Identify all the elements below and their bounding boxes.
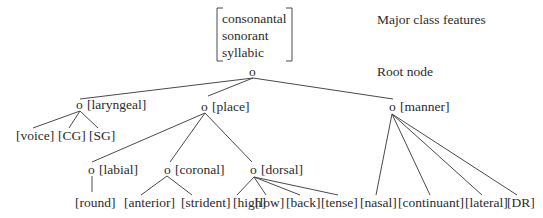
laryngeal-node: o bbox=[76, 97, 83, 112]
feature-lateral: [lateral] bbox=[465, 195, 508, 210]
feature-consonantal: consonantal bbox=[222, 10, 286, 27]
edge-laryngeal-sg bbox=[80, 111, 98, 128]
edge-laryngeal-voice bbox=[33, 111, 80, 128]
feature-syllabic: syllabic bbox=[222, 44, 286, 61]
feature-continuant: [continuant] bbox=[398, 195, 464, 210]
edge-place-dorsal bbox=[205, 113, 252, 162]
feature-dr: [DR] bbox=[507, 195, 535, 210]
feature-tense: [tense] bbox=[321, 195, 358, 210]
dorsal-label: [dorsal] bbox=[261, 162, 303, 177]
edge-dorsal-high bbox=[237, 177, 254, 195]
feature-round: [round] bbox=[75, 195, 116, 210]
laryngeal-label: [laryngeal] bbox=[87, 97, 146, 112]
major-class-label: Major class features bbox=[377, 12, 486, 27]
coronal-label: [coronal] bbox=[175, 162, 224, 177]
place-label: [place] bbox=[212, 99, 249, 114]
feature-voice: [voice] bbox=[16, 128, 54, 143]
root-node: o bbox=[249, 64, 256, 79]
feature-sg: [SG] bbox=[89, 128, 115, 143]
bracket-right bbox=[286, 8, 292, 61]
feature-low: [low] bbox=[255, 195, 284, 210]
edge-root-manner bbox=[253, 78, 393, 99]
edge-dorsal-tense bbox=[254, 177, 338, 195]
coronal-node: o bbox=[164, 162, 171, 177]
feature-strident: [strident] bbox=[181, 195, 231, 210]
feature-anterior: [anterior] bbox=[124, 195, 175, 210]
edge-manner-nasal bbox=[376, 114, 392, 195]
feature-sonorant: sonorant bbox=[222, 27, 286, 44]
place-node: o bbox=[201, 99, 208, 114]
labial-label: [labial] bbox=[99, 162, 138, 177]
edge-coronal-strident bbox=[167, 176, 192, 195]
dorsal-node: o bbox=[250, 162, 257, 177]
edge-manner-lateral bbox=[392, 114, 482, 195]
feature-nasal: [nasal] bbox=[360, 195, 397, 210]
root-node-label: Root node bbox=[377, 64, 433, 79]
feature-cg: [CG] bbox=[58, 128, 86, 143]
feature-back: [back] bbox=[286, 195, 320, 210]
manner-node: o bbox=[389, 99, 396, 114]
edge-coronal-anterior bbox=[141, 176, 167, 195]
edge-laryngeal-cg bbox=[69, 111, 80, 128]
labial-node: o bbox=[88, 162, 95, 177]
feature-geometry-diagram: consonantal sonorant syllabic Major clas… bbox=[0, 0, 543, 218]
major-class-features-list: consonantal sonorant syllabic bbox=[222, 10, 286, 61]
manner-label: [manner] bbox=[400, 99, 449, 114]
edge-dorsal-back bbox=[254, 177, 300, 195]
